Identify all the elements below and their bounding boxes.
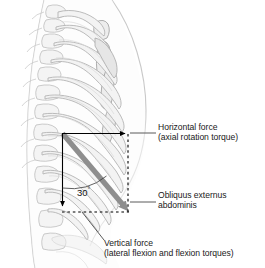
label-horizontal-force: Horizontal force (axial rotation torque) [158,122,238,143]
label-vertical-force: Vertical force (lateral flexion and flex… [104,238,234,259]
angle-label: 30° [77,186,90,198]
angle-value: 30 [77,187,88,198]
label-obliquus-line1: Obliquus externus [158,190,226,200]
label-horizontal-force-line1: Horizontal force [158,122,238,132]
label-obliquus-externus-abdominis: Obliquus externus abdominis [158,190,226,211]
label-horizontal-force-line2: (axial rotation torque) [158,132,238,142]
label-vertical-force-line1: Vertical force [104,238,234,248]
label-vertical-force-line2: (lateral flexion and flexion torques) [104,248,234,258]
degree-symbol: ° [88,186,91,193]
label-obliquus-line2: abdominis [158,200,226,210]
anatomy-force-diagram: 30° Horizontal force (axial rotation tor… [0,0,265,268]
